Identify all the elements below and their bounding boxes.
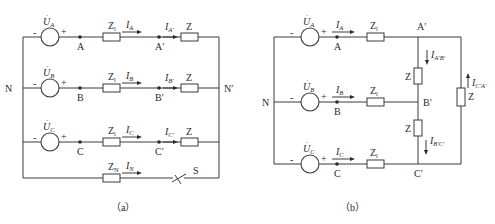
source-voltage-label: UB (303, 81, 314, 93)
node-label-c-prime: C′ (414, 168, 423, 179)
node-label-b-prime: B′ (423, 97, 432, 108)
phase-c-row: - + UC · C C′ Zl Z IC IC′ (23, 117, 219, 157)
current-label-ia: IA (125, 19, 133, 31)
neutral-impedance-icon (103, 174, 120, 182)
current-label-in: IN (125, 160, 134, 172)
minus-sign: - (290, 27, 293, 38)
minus-sign: - (33, 132, 36, 143)
delta-impedance-bc-icon (414, 120, 422, 136)
current-arrow-icon (173, 140, 178, 144)
minus-sign: - (290, 92, 293, 103)
neutral-row: ZN IN S (23, 160, 219, 184)
node-label-a-prime: A′ (155, 41, 164, 52)
current-label-ic-prime: IC′ (164, 126, 175, 138)
voltage-source-icon (301, 155, 319, 173)
current-label-ia: IA (335, 19, 343, 31)
node-label-c: C (334, 168, 341, 179)
current-label-ia-prime: IA′ (164, 21, 174, 33)
node-dot-icon (335, 162, 339, 166)
current-arrow-icon (173, 86, 178, 90)
load-impedance-label: Z (468, 91, 474, 102)
line-impedance-icon (103, 33, 120, 41)
phase-b-row: - + UB · B B′ Zl Z IB IB′ N N′ (5, 63, 233, 103)
node-label-n: N (262, 97, 269, 108)
current-arrow-icon (424, 150, 428, 155)
source-voltage-label: UA (303, 16, 314, 28)
neutral-impedance-label: ZN (108, 161, 119, 173)
minus-sign: - (33, 27, 36, 38)
load-impedance-icon (181, 33, 198, 41)
node-dot-icon (335, 35, 339, 39)
plus-sign: + (61, 77, 67, 88)
voltage-source-icon (301, 28, 319, 46)
load-impedance-icon (181, 138, 198, 146)
line-impedance-label: Zl (108, 125, 116, 137)
phasor-dot: · (306, 12, 308, 20)
plus-sign: + (61, 131, 67, 142)
current-arrow-icon (350, 30, 355, 34)
line-impedance-icon (103, 84, 120, 92)
line-impedance-icon (367, 98, 384, 106)
node-label-b: B (77, 92, 84, 103)
voltage-source-icon (41, 28, 59, 46)
phase-b-row-b: - + UB · B Zl IB B′ N (262, 77, 432, 117)
line-impedance-icon (367, 160, 384, 168)
node-label-a-prime: A′ (417, 21, 426, 32)
current-label-ic: IC (335, 146, 344, 158)
voltage-source-icon (41, 133, 59, 151)
current-arrow-icon (137, 135, 142, 139)
node-label-c-prime: C′ (155, 146, 164, 157)
phasor-dot: · (46, 12, 48, 20)
current-arrow-icon (137, 81, 142, 85)
line-impedance-icon (367, 33, 384, 41)
node-label-b: B (334, 106, 341, 117)
line-impedance-label: Zl (370, 85, 378, 97)
caption-b: （b） (340, 202, 365, 213)
line-impedance-label: Zl (370, 147, 378, 159)
node-label-a: A (334, 41, 342, 52)
minus-sign: - (33, 78, 36, 89)
current-label-ib-prime: IB′ (164, 72, 174, 84)
line-impedance-label: Zl (108, 71, 116, 83)
load-impedance-label: Z (186, 72, 192, 83)
current-label-ib: IB (125, 70, 133, 82)
node-dot-icon (335, 100, 339, 104)
line-impedance-label: Zl (108, 20, 116, 32)
delta-impedance-ab-icon (414, 68, 422, 84)
current-label-ib: IB (335, 84, 343, 96)
switch-label: S (193, 165, 199, 176)
current-label-ic: IC (125, 124, 134, 136)
phasor-dot: · (46, 63, 48, 71)
node-dot-icon (78, 86, 82, 90)
load-impedance-icon (181, 84, 198, 92)
node-label-n: N (5, 83, 12, 94)
node-dot-icon (157, 35, 161, 39)
node-dot-icon (157, 140, 161, 144)
phase-a-row: - + UA · A A′ Zl Z IA IA′ (23, 12, 219, 52)
diagram-a: - + UA · A A′ Zl Z IA IA′ - + (5, 12, 233, 213)
caption-a: （a） (111, 202, 135, 213)
current-arrow-icon (137, 171, 142, 175)
plus-sign: + (321, 91, 327, 102)
phasor-dot: · (46, 117, 48, 125)
plus-sign: + (61, 26, 67, 37)
node-label-c: C (77, 146, 84, 157)
current-arrow-icon (350, 157, 355, 161)
source-voltage-label: UB (43, 67, 54, 79)
voltage-source-icon (41, 79, 59, 97)
delta-impedance-ca-icon (457, 88, 465, 106)
node-label-b-prime: B′ (155, 92, 164, 103)
node-dot-icon (78, 35, 82, 39)
current-arrow-icon (173, 35, 178, 39)
node-label-a: A (77, 41, 85, 52)
load-impedance-label: Z (405, 123, 411, 134)
current-arrow-icon (466, 73, 470, 78)
line-impedance-label: Zl (370, 20, 378, 32)
load-impedance-label: Z (186, 126, 192, 137)
node-dot-icon (78, 140, 82, 144)
current-arrow-icon (137, 30, 142, 34)
phasor-dot: · (306, 139, 308, 147)
voltage-source-icon (301, 93, 319, 111)
load-impedance-label: Z (405, 71, 411, 82)
circuit-figure: - + UA · A A′ Zl Z IA IA′ - + (0, 0, 495, 224)
